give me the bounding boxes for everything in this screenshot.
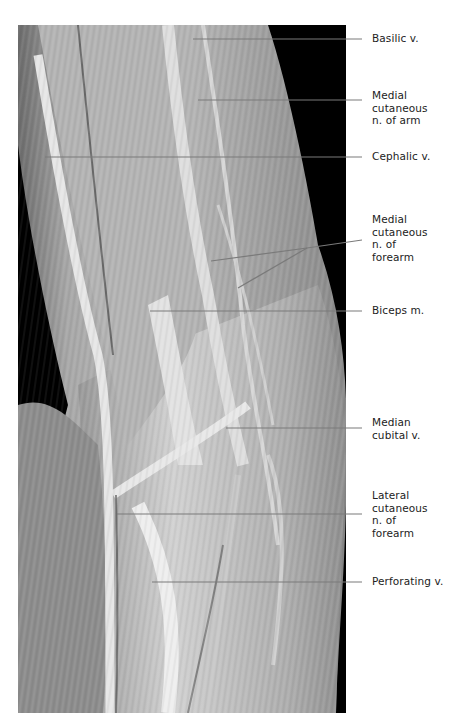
label-perforating-v: Perforating v. [372,575,443,588]
label-biceps-m: Biceps m. [372,304,424,317]
label-cephalic-v: Cephalic v. [372,150,430,163]
dissection-photo [18,25,346,713]
label-medial-cutaneous-n-arm: Medial cutaneous n. of arm [372,89,428,127]
label-median-cubital-v: Median cubital v. [372,416,421,441]
label-basilic-v: Basilic v. [372,32,419,45]
label-lateral-cutaneous-n-forearm: Lateral cutaneous n. of forearm [372,489,428,539]
arm-dissection-image [18,25,346,713]
label-medial-cutaneous-n-forearm: Medial cutaneous n. of forearm [372,213,428,263]
